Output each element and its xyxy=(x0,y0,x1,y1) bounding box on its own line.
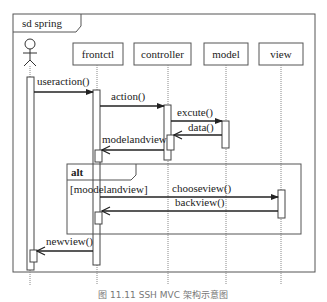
message-data: data() xyxy=(174,121,222,135)
svg-text:newview(): newview() xyxy=(46,235,93,248)
actor-icon xyxy=(23,39,37,66)
svg-text:chooseview(): chooseview() xyxy=(172,182,232,195)
message-excute: excute() xyxy=(171,106,222,121)
frame-label: sd spring xyxy=(22,17,63,29)
svg-text:useraction(): useraction() xyxy=(37,75,90,88)
sequence-diagram: sd spring frontctl controller model view xyxy=(0,0,327,302)
fragment-guard: [moodelandview] xyxy=(70,183,148,195)
lifeline-label: controller xyxy=(141,48,184,60)
svg-text:excute(): excute() xyxy=(177,106,213,119)
message-newview: newview() xyxy=(37,235,93,251)
lifeline-label: model xyxy=(212,48,240,60)
figure-caption: 图 11.11 SSH MVC 架构示意图 xyxy=(98,289,228,300)
message-backview: backview() xyxy=(102,196,278,211)
message-useraction: useraction() xyxy=(34,75,93,92)
svg-text:data(): data() xyxy=(188,121,214,134)
lifeline-label: view xyxy=(270,48,291,60)
svg-text:modelandview: modelandview xyxy=(102,133,167,145)
message-modelandview: modelandview xyxy=(102,133,167,150)
lifeline-label: frontctl xyxy=(82,48,114,60)
message-action: action() xyxy=(100,90,164,106)
svg-text:action(): action() xyxy=(111,90,146,103)
svg-text:backview(): backview() xyxy=(175,196,225,209)
fragment-operator: alt xyxy=(71,166,84,178)
